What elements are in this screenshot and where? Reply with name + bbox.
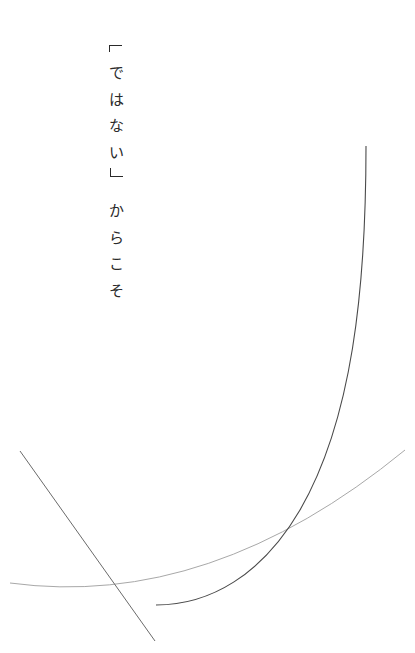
decorative-lines bbox=[0, 0, 415, 653]
poster-canvas: で は な い か ら こ そ bbox=[0, 0, 415, 653]
wide-arc-line bbox=[10, 450, 405, 587]
large-curve-line bbox=[156, 146, 366, 605]
diagonal-line bbox=[20, 451, 155, 641]
